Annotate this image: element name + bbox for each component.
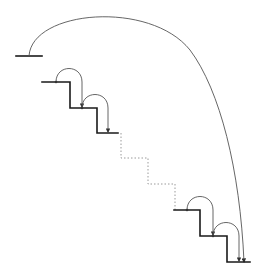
- hop-arc-3-start: [186, 209, 189, 212]
- hop-arc-1-start: [55, 81, 58, 84]
- hop-arc-2: [82, 95, 108, 133]
- upper-steps: [42, 82, 118, 133]
- staircase-diagram: [0, 0, 258, 271]
- hop-arc-2-start: [81, 107, 84, 110]
- elided-steps: [121, 133, 175, 210]
- hop-arc-4-start: [212, 235, 215, 238]
- hop-arc-4: [213, 223, 239, 262]
- hop-arc-1: [56, 69, 82, 108]
- long-arc: [29, 17, 244, 262]
